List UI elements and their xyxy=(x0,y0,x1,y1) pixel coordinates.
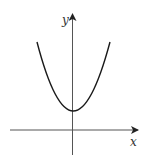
x-axis-label: x xyxy=(130,135,137,149)
y-axis-label: y xyxy=(61,13,69,27)
graph-canvas: y x xyxy=(0,0,144,164)
parabola-curve xyxy=(37,42,110,111)
